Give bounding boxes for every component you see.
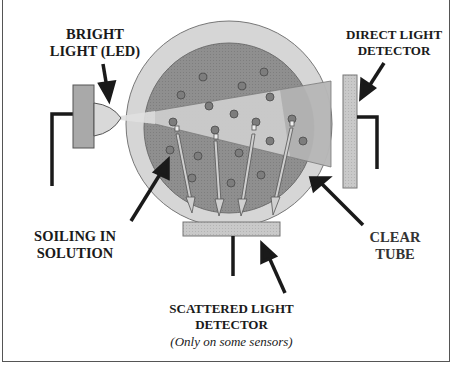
label-line: TUBE [355, 246, 435, 263]
label-line: SCATTERED LIGHT [160, 301, 303, 317]
label-line: DETECTOR [335, 43, 453, 59]
label-clear-tube: CLEAR TUBE [355, 229, 435, 263]
label-line: SOILING IN [25, 228, 125, 245]
label-scattered-light-detector: SCATTERED LIGHT DETECTOR [160, 301, 303, 333]
label-bright-light: BRIGHT LIGHT (LED) [40, 26, 150, 60]
label-line: LIGHT (LED) [40, 43, 150, 60]
label-scattered-note: (Only on some sensors) [160, 334, 303, 350]
label-line: DETECTOR [160, 317, 303, 333]
label-line: BRIGHT [40, 26, 150, 43]
label-line: DIRECT LIGHT [335, 27, 453, 43]
label-line: SOLUTION [25, 245, 125, 262]
label-soiling-in-solution: SOILING IN SOLUTION [25, 228, 125, 262]
label-line: CLEAR [355, 229, 435, 246]
label-direct-light-detector: DIRECT LIGHT DETECTOR [335, 27, 453, 59]
